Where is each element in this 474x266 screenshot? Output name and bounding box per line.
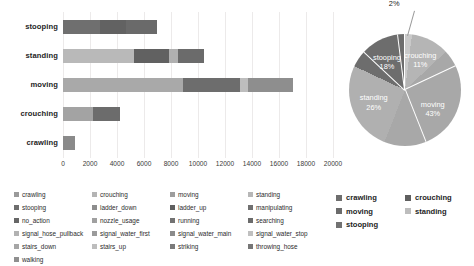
legend-label: walking — [22, 256, 43, 263]
pie-legend-label: standing — [415, 207, 447, 216]
pie-label-crawling: crawling2% — [370, 0, 418, 8]
bar-segment-crawling[interactable] — [63, 49, 134, 63]
legend-label: manipulating — [256, 204, 292, 211]
pie-legend-swatch — [336, 195, 342, 201]
pie-legend-item-standing[interactable]: standing — [405, 205, 470, 219]
bar-segment-standing[interactable] — [248, 78, 293, 92]
pie-label-leader-line — [407, 11, 415, 36]
legend-swatch — [170, 218, 175, 223]
legend-label: no_action — [22, 217, 50, 224]
bar-segment-crawling[interactable] — [63, 78, 183, 92]
pie-legend-swatch — [405, 195, 411, 201]
legend-swatch — [14, 257, 19, 262]
bar-segment-moving[interactable] — [169, 49, 178, 63]
legend-item-signal_hose_pullback[interactable]: signal_hose_pullback — [14, 227, 90, 240]
y-axis-label-crawling: crawling — [0, 136, 58, 150]
legend-label: striking — [178, 243, 198, 250]
legend-label: standing — [256, 191, 280, 198]
pie-legend-item-moving[interactable]: moving — [336, 205, 401, 219]
pie-legend-swatch — [405, 208, 411, 214]
legend-item-crouching[interactable]: crouching — [92, 188, 168, 201]
legend-swatch — [14, 218, 19, 223]
legend-swatch — [248, 218, 253, 223]
bar-segment-moving[interactable] — [240, 78, 248, 92]
bar-segment-crouching[interactable] — [134, 49, 169, 63]
pie-legend-swatch — [336, 208, 342, 214]
x-axis-tick: 14000 — [243, 160, 261, 167]
legend-label: stairs_down — [22, 243, 56, 250]
x-axis-tick: 0 — [61, 160, 65, 167]
legend-item-signal_water_first[interactable]: signal_water_first — [92, 227, 168, 240]
x-axis-tick: 18000 — [297, 160, 315, 167]
legend-swatch — [14, 231, 19, 236]
legend-item-ladder_up[interactable]: ladder_up — [170, 201, 246, 214]
legend-swatch — [14, 244, 19, 249]
y-axis-label-standing: standing — [0, 49, 58, 63]
x-axis-tick: 12000 — [216, 160, 234, 167]
legend-swatch — [92, 218, 97, 223]
legend-label: moving — [178, 191, 199, 198]
bar-crouching[interactable] — [63, 107, 333, 121]
legend-item-walking[interactable]: walking — [14, 253, 90, 266]
legend-swatch — [92, 231, 97, 236]
bar-segment-crouching[interactable] — [100, 20, 126, 34]
bar-segment-crouching[interactable] — [93, 107, 120, 121]
legend-label: searching — [256, 217, 284, 224]
pie-label-standing: standing26% — [350, 93, 398, 112]
legend-label: ladder_down — [100, 204, 137, 211]
legend-item-standing[interactable]: standing — [248, 188, 324, 201]
bar-moving[interactable] — [63, 78, 333, 92]
legend-label: crouching — [100, 191, 128, 198]
bar-stooping[interactable] — [63, 20, 333, 34]
pie-legend-label: crawling — [346, 193, 377, 202]
legend-swatch — [248, 231, 253, 236]
legend-item-signal_water_main[interactable]: signal_water_main — [170, 227, 246, 240]
pie-chart: crawling2%crouching11%moving43%standing2… — [330, 0, 474, 178]
x-axis-tick: 16000 — [270, 160, 288, 167]
legend-label: signal_water_main — [178, 230, 231, 237]
legend-item-throwing_hose[interactable]: throwing_hose — [248, 240, 324, 253]
legend-item-manipulating[interactable]: manipulating — [248, 201, 324, 214]
legend-item-nozzle_usage[interactable]: nozzle_usage — [92, 214, 168, 227]
pie-legend-item-stooping[interactable]: stooping — [336, 218, 401, 232]
legend-item-signal_water_stop[interactable]: signal_water_stop — [248, 227, 324, 240]
legend-item-stairs_down[interactable]: stairs_down — [14, 240, 90, 253]
pie-legend-item-crouching[interactable]: crouching — [405, 191, 470, 205]
bar-segment-crawling[interactable] — [63, 136, 75, 150]
legend-swatch — [170, 231, 175, 236]
legend-swatch — [248, 244, 253, 249]
legend-label: ladder_up — [178, 204, 206, 211]
legend-item-searching[interactable]: searching — [248, 214, 324, 227]
bar-segment-crawling[interactable] — [63, 20, 100, 34]
legend-label: nozzle_usage — [100, 217, 139, 224]
pie-chart-legend: crawlingcrouchingmovingstandingstooping — [336, 191, 470, 233]
bar-crawling[interactable] — [63, 136, 333, 150]
legend-item-no_action[interactable]: no_action — [14, 214, 90, 227]
legend-item-ladder_down[interactable]: ladder_down — [92, 201, 168, 214]
legend-swatch — [92, 244, 97, 249]
legend-item-running[interactable]: running — [170, 214, 246, 227]
legend-label: signal_water_first — [100, 230, 150, 237]
pie-label-stooping: stooping18% — [363, 53, 411, 72]
x-axis-tick: 8000 — [164, 160, 179, 167]
bar-chart-y-axis-labels: stoopingstandingmovingcrouchingcrawling — [0, 12, 58, 158]
legend-swatch — [14, 192, 19, 197]
bar-chart-plot-area — [63, 12, 333, 158]
legend-item-crawling[interactable]: crawling — [14, 188, 90, 201]
bar-chart-x-axis: 0200040006000800010000120001400016000180… — [63, 160, 333, 172]
bar-segment-crawling[interactable] — [63, 107, 93, 121]
legend-swatch — [248, 192, 253, 197]
bar-segment-standing[interactable] — [178, 49, 204, 63]
pie-legend-item-crawling[interactable]: crawling — [336, 191, 401, 205]
bar-segment-crouching[interactable] — [183, 78, 240, 92]
legend-item-stooping[interactable]: stooping — [14, 201, 90, 214]
x-axis-tick: 10000 — [189, 160, 207, 167]
pie-legend-label: crouching — [415, 193, 452, 202]
x-axis-tick: 2000 — [83, 160, 98, 167]
bar-segment-moving[interactable] — [126, 20, 157, 34]
legend-label: throwing_hose — [256, 243, 298, 250]
legend-item-striking[interactable]: striking — [170, 240, 246, 253]
legend-item-stairs_up[interactable]: stairs_up — [92, 240, 168, 253]
bar-standing[interactable] — [63, 49, 333, 63]
legend-item-moving[interactable]: moving — [170, 188, 246, 201]
